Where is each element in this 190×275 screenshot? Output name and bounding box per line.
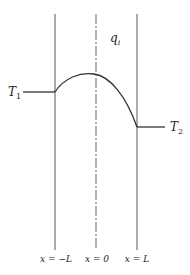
heat-generation-label: qi bbox=[110, 31, 121, 47]
t1-label: T1 bbox=[8, 85, 21, 101]
t2-label: T2 bbox=[170, 120, 183, 136]
plane-wall-diagram: qi T1 T2 x = −L x = 0 x = L bbox=[0, 0, 190, 275]
x-right-label: x = L bbox=[125, 254, 149, 264]
x-left-label: x = −L bbox=[40, 254, 72, 264]
x-center-label: x = 0 bbox=[85, 254, 109, 264]
